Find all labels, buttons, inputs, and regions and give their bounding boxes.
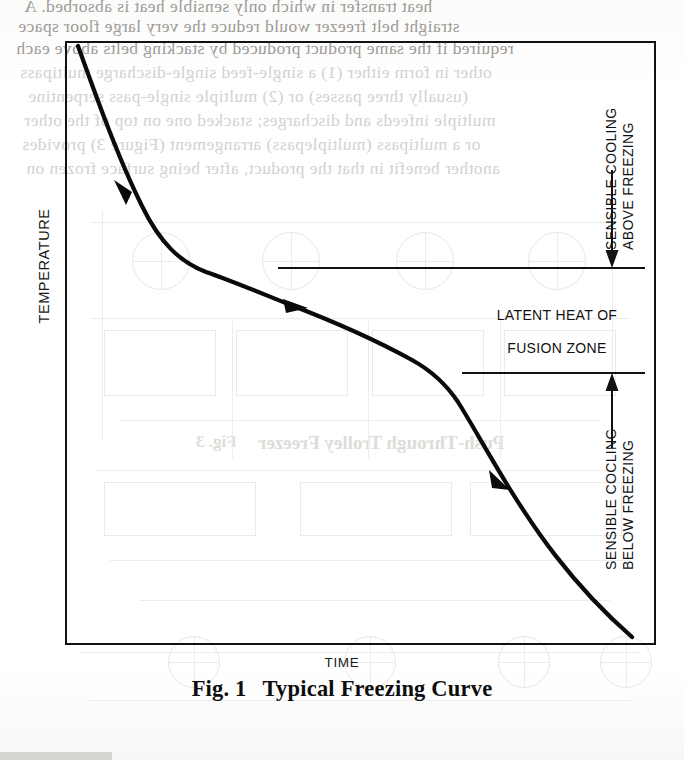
figure-caption: Fig. 1Typical Freezing Curve <box>0 676 684 702</box>
figure-caption-number: Fig. 1 <box>192 676 247 701</box>
sensible-above-line-1: SENSIBLE COOLING <box>603 50 620 250</box>
y-axis-title: TEMPERATURE <box>36 176 52 356</box>
sensible-below-line-2: BELOW FREEZING <box>620 350 637 570</box>
latent-zone-line-1: LATENT HEAT OF <box>477 307 637 324</box>
figure-caption-title: Typical Freezing Curve <box>263 676 493 701</box>
sensible-cooling-below-freezing-label: SENSIBLE COCLING BELOW FREEZING <box>604 562 654 570</box>
x-axis-title: TIME <box>0 655 684 670</box>
sensible-below-line-1: SENSIBLE COCLING <box>603 350 620 570</box>
scan-edge-artifact <box>0 752 112 760</box>
freezing-curve-plot <box>0 0 684 760</box>
sensible-above-line-2: ABOVE FREEZING <box>620 50 637 250</box>
sensible-cooling-above-freezing-label: SENSIBLE COOLING ABOVE FREEZING <box>604 242 654 250</box>
sensible-above-arrowhead-icon <box>606 250 619 268</box>
